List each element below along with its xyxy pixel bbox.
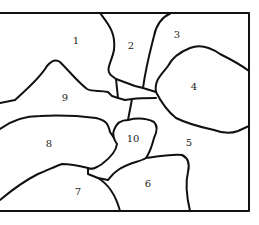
region-label-7: 7 — [75, 186, 81, 197]
region-label-3: 3 — [174, 29, 180, 40]
map-frame — [0, 13, 249, 211]
boundary-9-8 — [0, 116, 114, 138]
boundary-6-5 — [146, 155, 190, 211]
boundary-1-9 — [0, 60, 118, 103]
region-map: 1 2 3 4 5 6 7 8 9 10 — [0, 0, 259, 225]
boundary-2-3 — [116, 13, 171, 88]
boundary-4-5 — [156, 92, 249, 133]
region-label-5: 5 — [186, 137, 192, 148]
region-label-9: 9 — [62, 92, 68, 103]
region-label-2: 2 — [128, 40, 134, 51]
boundary-center — [125, 98, 156, 120]
region-label-1: 1 — [73, 35, 79, 46]
boundary-8-7 — [0, 164, 98, 200]
region-label-4: 4 — [191, 81, 197, 92]
boundary-7-6 — [98, 178, 120, 211]
region-label-8: 8 — [46, 138, 52, 149]
region-label-6: 6 — [145, 178, 151, 189]
region-labels: 1 2 3 4 5 6 7 8 9 10 — [46, 29, 197, 197]
region-label-10: 10 — [127, 133, 140, 144]
boundary-1-2 — [100, 13, 125, 100]
